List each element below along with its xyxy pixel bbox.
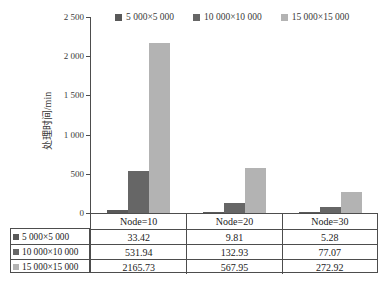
table-value-cell: 2165.73	[91, 259, 186, 274]
bar-group-Node=10	[91, 17, 187, 213]
table-header-cell: Node=30	[282, 214, 377, 229]
series-key-swatch-icon	[13, 249, 19, 255]
y-tick-label: 2 500	[42, 12, 84, 22]
y-axis-title: 处理时间/min	[39, 92, 54, 150]
bar-group-Node=30	[283, 17, 379, 213]
table-row-label: 5 000×5 000	[11, 229, 89, 244]
table-value-cell: 5.28	[282, 229, 377, 244]
y-tick-label: 0	[42, 208, 84, 218]
bar-10 000×10 000-Node=20	[224, 203, 245, 213]
bar-15 000×15 000-Node=10	[149, 43, 170, 213]
table-value-cell: 77.07	[282, 244, 377, 259]
table-row-label-text: 5 000×5 000	[22, 232, 69, 242]
data-table: Node=10Node=20Node=3033.429.815.28531.94…	[90, 213, 378, 273]
bar-15 000×15 000-Node=20	[245, 168, 266, 213]
y-tick-label: 1 000	[42, 130, 84, 140]
table-row-label: 10 000×10 000	[11, 244, 89, 259]
series-key-swatch-icon	[13, 264, 19, 270]
table-header-cell: Node=20	[186, 214, 281, 229]
table-value-cell: 567.95	[186, 259, 281, 274]
data-table-row-labels: 5 000×5 00010 000×10 00015 000×15 000	[10, 228, 90, 273]
table-row-label-text: 15 000×15 000	[22, 262, 78, 272]
table-value-cell: 132.93	[186, 244, 281, 259]
table-value-cell: 531.94	[91, 244, 186, 259]
bar-15 000×15 000-Node=30	[341, 192, 362, 213]
bar-group-Node=20	[187, 17, 283, 213]
table-value-cell: 9.81	[186, 229, 281, 244]
bar-10 000×10 000-Node=10	[128, 171, 149, 213]
series-key-swatch-icon	[13, 234, 19, 240]
bar-chart-with-data-table: 5 000×5 00010 000×10 00015 000×15 000 处理…	[0, 0, 390, 285]
y-tick-label: 1 500	[42, 90, 84, 100]
y-tick-label: 2 000	[42, 51, 84, 61]
table-row-label: 15 000×15 000	[11, 259, 89, 274]
table-header-cell: Node=10	[91, 214, 186, 229]
plot-area	[90, 17, 378, 213]
table-value-cell: 33.42	[91, 229, 186, 244]
table-row-label-text: 10 000×10 000	[22, 247, 78, 257]
table-value-cell: 272.92	[282, 259, 377, 274]
y-tick-label: 500	[42, 169, 84, 179]
